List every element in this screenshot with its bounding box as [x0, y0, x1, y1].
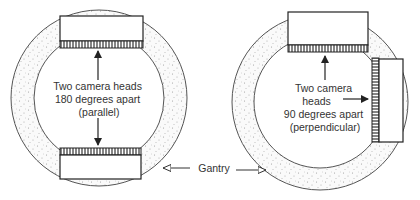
right-label-line-2: heads [302, 95, 331, 107]
right-label-line-4: (perpendicular) [290, 121, 361, 133]
camera-heads-diagram: Two camera heads 180 degrees apart (para… [0, 0, 420, 200]
right-label-line-3: 90 degrees apart [284, 108, 363, 120]
gantry-label: Gantry [198, 162, 230, 174]
left-label-line-2: 180 degrees apart [55, 93, 140, 105]
left-label-line-3: (parallel) [79, 106, 120, 118]
right-label: Two camera heads 90 degrees apart (perpe… [284, 82, 366, 133]
left-bottom-camera-head [60, 148, 141, 179]
left-top-camera-head [60, 16, 143, 48]
right-top-camera-head [288, 12, 368, 52]
right-side-camera-head [372, 58, 403, 142]
left-label-line-1: Two camera heads [53, 80, 142, 92]
right-label-line-1: Two camera [295, 82, 352, 94]
